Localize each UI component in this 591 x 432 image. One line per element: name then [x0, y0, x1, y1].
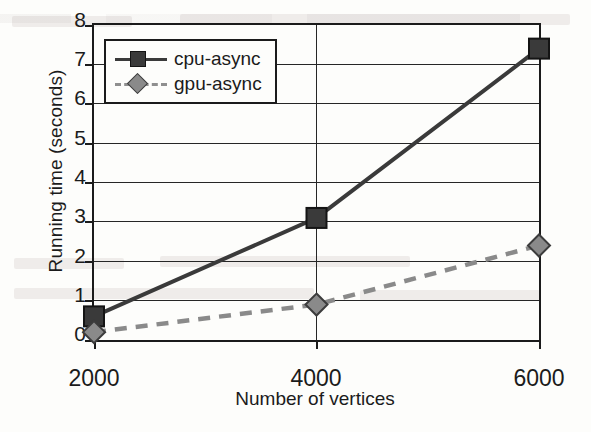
y-tick-label: 7: [56, 47, 86, 71]
y-tick-label: 5: [56, 126, 86, 150]
x-tick-label: 6000: [494, 365, 584, 392]
data-point-cpu-async-4000: [307, 208, 327, 228]
y-tick-label: 3: [56, 204, 86, 228]
y-tick-label: 2: [56, 244, 86, 268]
legend-item-cpu-async: cpu-async: [115, 46, 262, 71]
y-tick-label: 8: [56, 8, 86, 32]
y-axis-tick: [85, 64, 94, 66]
y-axis-tick: [85, 143, 94, 145]
x-axis-tick: [539, 340, 541, 349]
data-point-gpu-async-4000: [306, 294, 328, 316]
data-point-gpu-async-6000: [528, 235, 550, 257]
plot-area: 2000 4000 6000 cpu-async gpu-async: [92, 23, 541, 342]
y-tick-label: 6: [56, 86, 86, 110]
y-axis-tick: [85, 103, 94, 105]
y-axis-tick: [85, 25, 94, 27]
legend-item-gpu-async: gpu-async: [115, 71, 262, 96]
legend: cpu-async gpu-async: [104, 39, 277, 104]
legend-label: cpu-async: [174, 48, 261, 70]
legend-key-diamond-icon: [115, 73, 167, 95]
legend-key-square-icon: [115, 48, 167, 70]
x-axis-tick: [316, 340, 318, 349]
x-tick-label: 4000: [271, 365, 361, 392]
x-tick-label: 2000: [49, 365, 139, 392]
y-axis-tick: [85, 261, 94, 263]
figure: Running time (seconds) Number of vertice…: [0, 0, 591, 432]
y-tick-label: 4: [56, 165, 86, 189]
y-tick-label: 1: [56, 283, 86, 307]
y-tick-label: 0: [56, 322, 86, 346]
legend-label: gpu-async: [174, 73, 262, 95]
y-axis-tick: [85, 221, 94, 223]
y-axis-tick: [85, 300, 94, 302]
data-point-cpu-async-6000: [529, 39, 549, 59]
y-axis-tick: [85, 182, 94, 184]
